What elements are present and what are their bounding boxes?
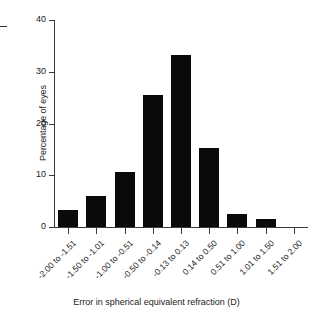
bar	[143, 95, 163, 227]
bar	[256, 219, 276, 227]
x-axis-title: Error in spherical equivalent refraction…	[0, 297, 313, 307]
y-axis-tick-label: 20	[36, 118, 46, 128]
bar	[199, 148, 219, 227]
figure-container: Percentage of eyes 010203040 -2.00 to -1…	[0, 0, 313, 321]
y-axis-tick: 0	[49, 227, 54, 228]
y-axis-tick-label: 30	[36, 66, 46, 76]
bars-layer	[54, 20, 308, 227]
bar	[86, 196, 106, 227]
bar	[58, 210, 78, 227]
bar	[227, 214, 247, 227]
x-axis-tick	[237, 228, 238, 234]
x-axis-tick	[125, 228, 126, 234]
x-axis-tick	[181, 228, 182, 234]
edge-stub-mark	[0, 26, 7, 27]
y-axis-tick-label: 0	[41, 221, 46, 231]
x-axis-tick	[96, 228, 97, 234]
y-axis-tick-label: 40	[36, 14, 46, 24]
x-axis-tick	[266, 228, 267, 234]
y-axis-tick-label: 10	[36, 169, 46, 179]
x-axis-tick	[209, 228, 210, 234]
bar	[171, 55, 191, 227]
x-axis-tick	[294, 228, 295, 234]
x-axis-tick	[153, 228, 154, 234]
x-axis-tick	[68, 228, 69, 234]
bar	[115, 172, 135, 227]
